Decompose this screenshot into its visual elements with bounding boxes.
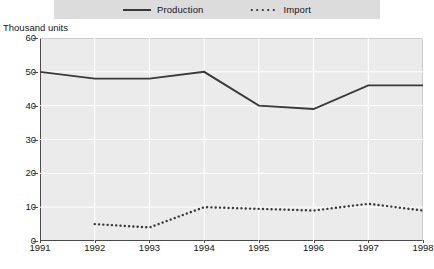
x-tick-label: 1994	[194, 243, 215, 253]
y-axis-ticks: 6050403020100	[0, 38, 36, 241]
x-tick-label: 1992	[84, 243, 105, 253]
y-tick-label: 10	[2, 202, 36, 212]
y-tick-label: 50	[2, 67, 36, 77]
x-tick-mark	[368, 240, 369, 243]
x-tick-label: 1997	[358, 243, 379, 253]
y-tick-label: 20	[2, 168, 36, 178]
legend-label-production: Production	[157, 5, 203, 15]
x-tick-label: 1998	[412, 243, 433, 253]
x-tick-mark	[423, 240, 424, 243]
x-tick-label: 1996	[303, 243, 324, 253]
y-tick-label: 40	[2, 101, 36, 111]
y-tick-mark	[33, 106, 38, 107]
y-tick-mark	[33, 173, 38, 174]
x-tick-label: 1993	[139, 243, 160, 253]
dotted-line-swatch-icon	[249, 5, 277, 14]
y-tick-mark	[33, 207, 38, 208]
legend-item-import: Import	[249, 5, 311, 15]
x-tick-mark	[149, 240, 150, 243]
chart-legend: Production Import	[54, 0, 380, 19]
y-tick-mark	[33, 38, 38, 39]
x-tick-mark	[40, 240, 41, 243]
y-tick-mark	[33, 72, 38, 73]
series-line-production	[40, 72, 423, 109]
y-tick-label: 60	[2, 33, 36, 43]
x-axis-ticks: 19911992199319941995199619971998	[40, 243, 423, 257]
plot-canvas	[40, 38, 423, 241]
x-tick-mark	[204, 240, 205, 243]
legend-label-import: Import	[283, 5, 311, 15]
x-tick-mark	[95, 240, 96, 243]
x-tick-label: 1995	[248, 243, 269, 253]
plot-area	[40, 38, 423, 241]
solid-line-swatch-icon	[123, 5, 151, 14]
x-tick-mark	[314, 240, 315, 243]
y-tick-label: 30	[2, 135, 36, 145]
x-tick-label: 1991	[29, 243, 50, 253]
legend-item-production: Production	[123, 5, 203, 15]
y-tick-mark	[33, 140, 38, 141]
x-tick-mark	[259, 240, 260, 243]
